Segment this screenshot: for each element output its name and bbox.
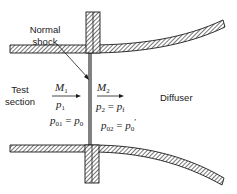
- stagnation-downstream: p02 = p0′: [101, 118, 136, 133]
- mach-upstream: M1: [55, 82, 68, 95]
- test-section-label: Test section: [2, 85, 38, 106]
- pressure-downstream: p2 = pf: [96, 101, 125, 114]
- diffuser-label: Diffuser: [160, 93, 193, 103]
- pressure-upstream: p1: [56, 99, 65, 112]
- bottom-wall: [10, 145, 224, 185]
- stagnation-upstream: p01 = p0: [50, 115, 83, 128]
- arrow-right-icon: [119, 94, 124, 98]
- mach-downstream: M2: [97, 82, 110, 95]
- arrow-right-icon: [76, 94, 81, 98]
- normal-shock-label: Normal shock: [28, 25, 62, 46]
